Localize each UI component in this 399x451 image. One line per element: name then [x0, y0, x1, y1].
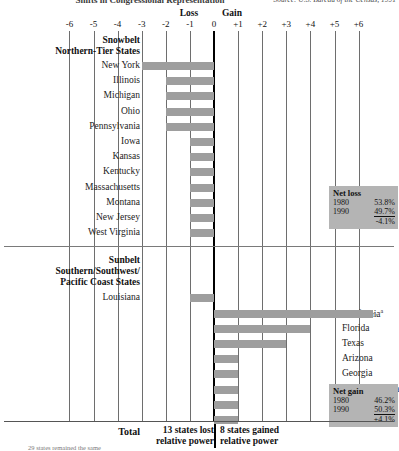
axis-tick-0: 0: [203, 19, 225, 29]
bar-montana: [190, 199, 214, 207]
net-loss-1990-value: 49.7%: [374, 207, 395, 217]
bar-ohio: [166, 108, 214, 116]
axis-tick--3: -3: [131, 19, 153, 29]
sunbelt-heading-line2: Southern/Southwest/: [56, 266, 140, 277]
chart-row: Arizona: [0, 352, 398, 367]
row-label-louisiana: Louisiana: [103, 292, 140, 302]
net-loss-1980-value: 53.8%: [374, 198, 395, 207]
axis-tick-+5: +5: [324, 19, 346, 29]
row-label-michigan: Michigan: [104, 90, 140, 100]
net-gain-title: Net gain: [333, 386, 395, 396]
row-label-pennsylvania: Pennsylvania: [89, 121, 140, 131]
total-gain-line1: 8 states gained: [220, 425, 320, 436]
bar-pennsylvania: [166, 123, 214, 131]
bar-texas: [214, 340, 286, 348]
bar-california: [214, 310, 373, 318]
total-loss-line1: 13 states lost: [148, 425, 214, 436]
total-label: Total: [118, 426, 140, 437]
net-gain-1980-value: 46.2%: [374, 396, 395, 405]
total-zero-separator: [214, 424, 216, 448]
net-loss-1980-year: 1980: [333, 198, 349, 207]
axis-caption-gain: Gain: [212, 8, 252, 19]
net-loss-total: -4.1%: [333, 217, 395, 226]
row-label-florida: Florida: [342, 323, 369, 333]
axis-tick-labels: -6-5-4-3-2-10+1+2+3+4+5+6: [0, 19, 398, 31]
net-loss-1990-year: 1990: [333, 207, 349, 217]
net-loss-1990: 1990 49.7%: [333, 207, 395, 217]
chart-row: Georgia: [0, 367, 398, 382]
net-loss-title: Net loss: [333, 188, 395, 198]
chart-row: Louisiana: [0, 291, 398, 306]
bar-kansas: [190, 153, 214, 161]
sunbelt-heading-line1: Sunbelt: [56, 255, 140, 266]
row-label-texas: Texas: [342, 338, 364, 348]
axis-tick-+6: +6: [348, 19, 370, 29]
row-label-kentucky: Kentucky: [103, 166, 140, 176]
sunbelt-heading-line3: Pacific Coast States: [56, 277, 140, 288]
row-label-massachusetts: Massachusetts: [85, 182, 140, 192]
axis-tick--1: -1: [179, 19, 201, 29]
axis-tick-+2: +2: [251, 19, 273, 29]
axis-tick--5: -5: [83, 19, 105, 29]
net-gain-1980-year: 1980: [333, 396, 349, 405]
net-loss-1980: 1980 53.8%: [333, 198, 395, 207]
total-loss-text: 13 states lost relative power: [148, 425, 214, 447]
row-label-iowa: Iowa: [121, 136, 140, 146]
sunbelt-heading: SunbeltSouthern/Southwest/Pacific Coast …: [56, 255, 140, 288]
bar-new-york: [142, 62, 214, 70]
chart-row: Illinois: [0, 74, 398, 89]
chart-row: Florida: [0, 322, 398, 337]
snowbelt-heading-line1: Snowbelt: [55, 35, 140, 46]
net-gain-total: +4.1%: [333, 415, 395, 424]
axis-tick--2: -2: [155, 19, 177, 29]
bar-louisiana: [190, 294, 214, 302]
chart-title: Shifts in Congressional Representation: [0, 0, 300, 5]
chart-row: Michigan: [0, 89, 398, 104]
axis-break-icon: ~: [370, 308, 379, 320]
chart-row: Pennsylvania: [0, 120, 398, 135]
row-label-new-york: New York: [101, 60, 140, 70]
chart-row: Iowa: [0, 135, 398, 150]
chart-row: Kansas: [0, 150, 398, 165]
chart-row: Texas: [0, 337, 398, 352]
row-label-west-virginia: West Virginia: [88, 227, 140, 237]
axis-tick-+1: +1: [227, 19, 249, 29]
bar-arizona: [214, 355, 238, 363]
chart-row: New York: [0, 59, 398, 74]
snowbelt-heading: SnowbeltNorthern-Tier States: [55, 35, 140, 57]
bar-kentucky: [190, 168, 214, 176]
bar-illinois: [166, 77, 214, 85]
axis-tick-+4: +4: [299, 19, 321, 29]
snowbelt-heading-line2: Northern-Tier States: [55, 46, 140, 57]
total-gain-line2: relative power: [220, 436, 320, 447]
row-label-georgia: Georgia: [342, 368, 372, 378]
bar-georgia: [214, 370, 238, 378]
bar-florida: [214, 325, 310, 333]
chart-row: Kentucky: [0, 165, 398, 180]
chart-row: Ohio: [0, 105, 398, 120]
section-divider: [4, 246, 394, 247]
bar-west-virginia: [190, 229, 214, 237]
row-label-kansas: Kansas: [113, 151, 140, 161]
bar-michigan: [166, 92, 214, 100]
bottom-rule: [4, 421, 394, 422]
axis-tick--6: -6: [58, 19, 80, 29]
row-label-ohio: Ohio: [121, 106, 140, 116]
axis-caption-loss: Loss: [169, 8, 209, 19]
chart-row: Californiaa~: [0, 307, 398, 322]
bar-massachusetts: [190, 184, 214, 192]
row-label-montana: Montana: [106, 197, 140, 207]
total-loss-line2: relative power: [148, 436, 214, 447]
net-gain-1990-year: 1990: [333, 405, 349, 415]
chart-source: Source: U.S. Bureau of the Census, 1991: [273, 0, 396, 4]
bar-virginia: [214, 401, 238, 409]
total-gain-text: 8 states gained relative power: [220, 425, 320, 447]
bar-north-carolina: [214, 386, 238, 394]
chart-footnote: 29 states remained the same: [28, 444, 101, 451]
axis-tick-+3: +3: [275, 19, 297, 29]
axis-tick--4: -4: [107, 19, 129, 29]
row-label-illinois: Illinois: [113, 75, 140, 85]
bar-new-jersey: [190, 214, 214, 222]
net-loss-box: Net loss 1980 53.8% 1990 49.7% -4.1%: [329, 186, 398, 229]
